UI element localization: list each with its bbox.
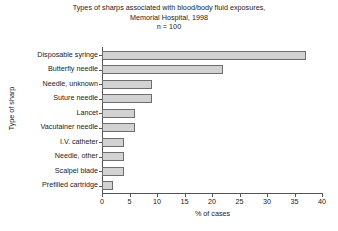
bar xyxy=(102,65,223,74)
bar xyxy=(102,94,152,103)
bar-row xyxy=(102,63,322,78)
x-axis-tick-label: 30 xyxy=(254,197,280,206)
y-axis-tick xyxy=(99,113,102,114)
x-axis-title: % of cases xyxy=(102,209,323,218)
y-axis-tick xyxy=(99,70,102,71)
y-axis-label: Disposable syringe xyxy=(0,51,98,59)
x-axis-tick-label: 10 xyxy=(144,197,170,206)
y-axis-tick xyxy=(99,55,102,56)
y-axis-tick xyxy=(99,142,102,143)
y-axis-label: Prefilled cartridge xyxy=(0,181,98,189)
x-axis-tick-label: 0 xyxy=(89,197,115,206)
bar-row xyxy=(102,164,322,179)
chart-title: Types of sharps associated with blood/bo… xyxy=(0,3,338,13)
y-axis-tick xyxy=(99,171,102,172)
bar-row xyxy=(102,77,322,92)
chart-title-block: Types of sharps associated with blood/bo… xyxy=(0,3,338,32)
bar xyxy=(102,123,135,132)
x-axis-tick-label: 40 xyxy=(309,197,335,206)
chart-sample-size: n = 100 xyxy=(0,22,338,32)
bar-row xyxy=(102,106,322,121)
x-axis-tick-label: 35 xyxy=(282,197,308,206)
y-axis-tick xyxy=(99,157,102,158)
y-axis-tick xyxy=(99,186,102,187)
bar-row xyxy=(102,150,322,165)
bar xyxy=(102,152,124,161)
bar-row xyxy=(102,48,322,63)
bar-row xyxy=(102,121,322,136)
y-axis-title: Type of sharp xyxy=(7,74,16,144)
bar xyxy=(102,51,306,60)
bar xyxy=(102,138,124,147)
bar xyxy=(102,181,113,190)
x-axis-tick-label: 15 xyxy=(172,197,198,206)
plot-area xyxy=(102,48,322,193)
bar-row xyxy=(102,179,322,194)
y-axis-label: Scalpel blade xyxy=(0,167,98,175)
bar xyxy=(102,109,135,118)
chart-subtitle: Memorial Hospital, 1998 xyxy=(0,13,338,23)
x-axis-tick-label: 20 xyxy=(199,197,225,206)
bar xyxy=(102,167,124,176)
x-axis-tick-label: 25 xyxy=(227,197,253,206)
y-axis-tick xyxy=(99,128,102,129)
y-axis-tick xyxy=(99,84,102,85)
y-axis-label: Needle, other xyxy=(0,152,98,160)
x-axis-tick-label: 5 xyxy=(117,197,143,206)
bar xyxy=(102,80,152,89)
bar-row xyxy=(102,92,322,107)
bar-chart: Types of sharps associated with blood/bo… xyxy=(0,0,338,231)
bar-row xyxy=(102,135,322,150)
y-axis-label: Butterfly needle xyxy=(0,65,98,73)
y-axis-tick xyxy=(99,99,102,100)
